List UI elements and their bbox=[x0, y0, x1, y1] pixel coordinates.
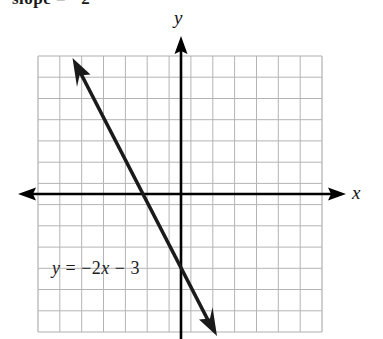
graph-page: slope = −2 bbox=[0, 0, 383, 339]
equation-label: y=−2x−3 bbox=[52, 258, 140, 279]
x-axis-label: x bbox=[351, 182, 361, 203]
y-axis-label: y bbox=[172, 7, 183, 28]
equation-variable: x bbox=[101, 258, 110, 278]
coordinate-graph: y x bbox=[0, 0, 383, 339]
equation-coefficient: −2 bbox=[81, 258, 101, 278]
equation-constant: 3 bbox=[130, 258, 140, 278]
plotted-line bbox=[73, 58, 218, 336]
y-axis bbox=[175, 36, 188, 339]
equation-lhs: y bbox=[52, 258, 61, 278]
equation-operator: − bbox=[115, 258, 126, 278]
equation-equals: = bbox=[66, 258, 77, 278]
